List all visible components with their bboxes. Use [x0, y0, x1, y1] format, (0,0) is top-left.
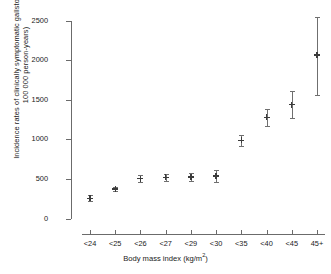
x-tick-mark-6 — [241, 230, 242, 235]
data-point-0 — [87, 195, 93, 201]
y-tick-mark-1000 — [66, 139, 71, 140]
error-bar-cap-7-low — [265, 126, 270, 127]
y-tick-2500: 2500 — [0, 21, 71, 22]
error-bar-cap-3-low — [164, 181, 169, 182]
y-tick-label-0: 0 — [18, 215, 48, 223]
data-point-3 — [163, 174, 169, 180]
x-axis-title-tail: ) — [205, 254, 208, 263]
data-point-7 — [264, 114, 270, 120]
y-tick-mark-0 — [66, 219, 71, 220]
x-tick-mark-9 — [317, 230, 318, 235]
error-bar-cap-2-low — [138, 182, 143, 183]
error-bar-cap-8-low — [290, 118, 295, 119]
y-tick-label-2500: 2500 — [18, 17, 48, 25]
error-bar-cap-6-low — [239, 146, 244, 147]
data-point-6 — [238, 137, 244, 143]
x-tick-mark-7 — [267, 230, 268, 235]
y-tick-500: 500 — [0, 179, 71, 180]
data-point-1 — [112, 186, 118, 192]
error-bar-cap-9-high — [315, 17, 320, 18]
gallstone-incidence-chart: Incidence rates of clinically symptomati… — [0, 0, 331, 274]
error-bar-cap-5-high — [214, 170, 219, 171]
x-tick-mark-5 — [216, 230, 217, 235]
error-bar-cap-5-low — [214, 182, 219, 183]
x-tick-mark-2 — [140, 230, 141, 235]
y-tick-2000: 2000 — [0, 60, 71, 61]
y-tick-mark-2000 — [66, 60, 71, 61]
error-bar-cap-8-high — [290, 91, 295, 92]
x-tick-label-9: 45+ — [300, 239, 331, 248]
y-tick-label-1000: 1000 — [18, 135, 48, 143]
data-point-5 — [213, 173, 219, 179]
y-tick-label-500: 500 — [18, 175, 48, 183]
y-tick-mark-500 — [66, 179, 71, 180]
x-tick-mark-8 — [292, 230, 293, 235]
y-tick-label-1500: 1500 — [18, 96, 48, 104]
y-tick-mark-2500 — [66, 21, 71, 22]
y-tick-0: 0 — [0, 219, 71, 220]
data-point-8 — [289, 102, 295, 108]
x-tick-mark-0 — [90, 230, 91, 235]
y-tick-1500: 1500 — [0, 100, 71, 101]
data-point-9 — [314, 52, 320, 58]
error-bar-cap-6-high — [239, 135, 244, 136]
x-tick-mark-3 — [166, 230, 167, 235]
x-tick-mark-1 — [115, 230, 116, 235]
y-axis-spine — [71, 21, 72, 219]
x-tick-mark-4 — [191, 230, 192, 235]
y-tick-label-2000: 2000 — [18, 56, 48, 64]
error-bar-cap-7-high — [265, 109, 270, 110]
error-bar-cap-4-low — [189, 181, 194, 182]
x-axis-spine — [82, 234, 325, 235]
error-bar-cap-9-low — [315, 95, 320, 96]
data-point-2 — [137, 176, 143, 182]
x-axis-title-text: Body mass index (kg/m — [123, 254, 202, 263]
x-axis-title: Body mass index (kg/m2) — [0, 252, 331, 263]
y-tick-1000: 1000 — [0, 139, 71, 140]
data-point-4 — [188, 174, 194, 180]
y-tick-mark-1500 — [66, 100, 71, 101]
